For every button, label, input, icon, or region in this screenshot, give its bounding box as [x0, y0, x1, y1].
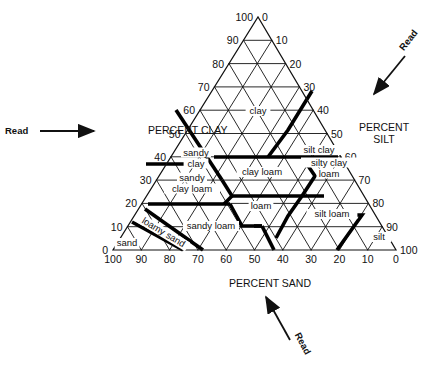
sand-tick-label: 10	[362, 253, 374, 265]
silt-tick-label: 20	[290, 58, 302, 70]
region-label-sand: sand	[115, 237, 140, 248]
region-label-text: clay loam	[242, 166, 282, 177]
read-label-sand: Read	[293, 331, 314, 357]
silt-tick-label: 100	[400, 244, 418, 256]
clay-tick-label: 10	[111, 221, 123, 233]
region-label-sandy-clay-loam: sandyclay loam	[164, 172, 220, 194]
clay-tick-label: 90	[227, 34, 239, 46]
silt-tick-label: 50	[331, 128, 343, 140]
clay-tick-label: 60	[183, 104, 195, 116]
sand-tick-label: 90	[135, 253, 147, 265]
texture-boundary-line	[337, 215, 362, 250]
silt-tick-label: 30	[303, 81, 315, 93]
silt-tick-label: 90	[386, 221, 398, 233]
region-label-silt-loam: silt loam	[307, 208, 358, 219]
region-label-text: sandy	[179, 172, 205, 183]
region-label-text: loam	[251, 200, 272, 211]
sand-tick-label: 50	[249, 253, 261, 265]
region-label-text: silt loam	[315, 208, 350, 219]
silt-tick-label: 80	[372, 197, 384, 209]
silt-axis-title-line2: SILT	[373, 133, 395, 145]
sand-tick-label: 70	[192, 253, 204, 265]
sand-tick-label: 30	[305, 253, 317, 265]
silt-tick-label: 40	[317, 104, 329, 116]
sand-tick-label: 20	[334, 253, 346, 265]
region-label-text: silt	[373, 231, 385, 242]
texture-boundary-line	[222, 180, 232, 196]
read-label-silt: Read	[397, 27, 420, 52]
region-label-text: clay loam	[172, 183, 212, 194]
texture-boundary-line	[262, 226, 274, 250]
sand-axis-title: PERCENT SAND	[229, 277, 311, 289]
silt-tick-label: 10	[276, 34, 288, 46]
sand-tick-label: 60	[220, 253, 232, 265]
texture-boundary-line	[176, 110, 222, 180]
clay-tick-label: 80	[212, 58, 224, 70]
silt-axis-title-line1: PERCENT	[359, 121, 410, 133]
clay-tick-label: 30	[140, 174, 152, 186]
region-label-sandy-clay: sandyclay	[181, 147, 211, 169]
region-label-silt: silt	[367, 231, 392, 242]
read-label-clay: Read	[5, 125, 28, 136]
sand-axis-ticks: 1009080706050403020100	[104, 253, 399, 265]
clay-tick-label: 70	[198, 81, 210, 93]
region-label-clay-loam: clay loam	[237, 166, 288, 177]
soil-texture-triangle: 0102030405060708090100 01020304050607080…	[0, 0, 437, 367]
region-label-silt-clay: silt clay	[294, 144, 345, 155]
region-label-text: sandy	[183, 147, 209, 158]
region-label-text: sand	[117, 237, 138, 248]
region-label-loamy-sand: loamy sand	[137, 213, 191, 251]
silt-tick-label: 70	[359, 174, 371, 186]
region-label-text: sandy loam	[187, 220, 236, 231]
clay-tick-label: 40	[154, 151, 166, 163]
region-label-loam: loam	[249, 200, 274, 211]
region-label-text: silty clay	[311, 157, 347, 168]
read-arrow-sand	[266, 297, 290, 340]
clay-axis-title: PERCENT CLAY	[148, 124, 228, 136]
sand-tick-label: 100	[104, 253, 122, 265]
region-label-clay: clay	[246, 105, 271, 116]
clay-tick-label: 100	[235, 11, 253, 23]
sand-tick-label: 40	[277, 253, 289, 265]
region-label-text: clay	[188, 158, 205, 169]
region-label-text: silt clay	[303, 144, 334, 155]
region-label-text: loam	[319, 168, 340, 179]
texture-boundary-line	[276, 196, 302, 238]
silt-tick-label: 0	[262, 11, 268, 23]
region-label-text: clay	[250, 105, 267, 116]
read-arrow-silt	[374, 56, 405, 94]
sand-tick-label: 80	[164, 253, 176, 265]
sand-tick-label: 0	[393, 253, 399, 265]
region-label-silty-clay-loam: silty clayloam	[301, 157, 357, 179]
region-label-sandy-loam: sandy loam	[183, 220, 239, 231]
clay-tick-label: 20	[125, 197, 137, 209]
